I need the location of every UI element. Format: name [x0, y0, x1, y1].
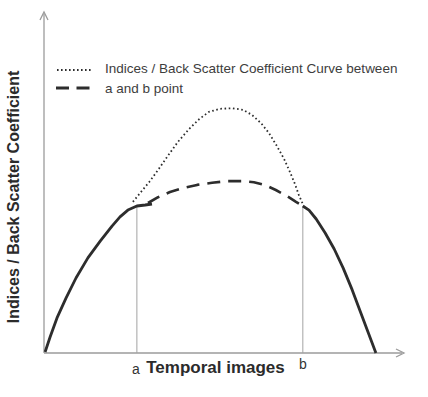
legend-text-line2: a and b point — [105, 79, 397, 99]
dashed-line-sample-icon — [55, 79, 93, 99]
series-flat-curve-between-a-b — [148, 181, 303, 206]
y-axis-title: Indices / Back Scatter Coefficient — [5, 57, 27, 337]
legend-text: Indices / Back Scatter Coefficient Curve… — [105, 59, 397, 99]
legend: Indices / Back Scatter Coefficient Curve… — [55, 59, 397, 99]
point-a-label: a — [128, 361, 144, 377]
legend-text-line1: Indices / Back Scatter Coefficient Curve… — [105, 59, 397, 79]
curves — [45, 108, 376, 353]
series-observed-curve-right-of-b — [303, 206, 376, 353]
series-observed-curve-left-of-a — [45, 204, 152, 352]
point-b-label: b — [295, 356, 311, 372]
figure: Indices / Back Scatter Coefficient Curve… — [0, 0, 428, 397]
x-axis-title: Temporal images — [143, 358, 288, 378]
legend-samples — [55, 59, 93, 99]
dotted-line-sample-icon — [55, 59, 93, 79]
marker-lines — [137, 206, 303, 353]
